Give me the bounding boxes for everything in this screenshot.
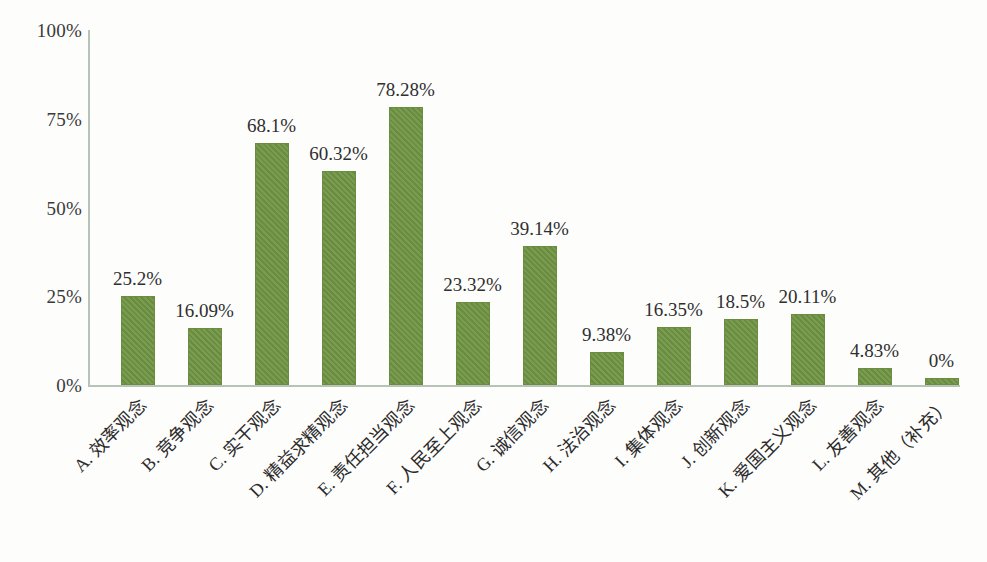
bar [925, 378, 959, 385]
x-axis-label-slot: H. 法治观念 [573, 392, 640, 562]
bar-group: 78.28% [372, 30, 439, 385]
bar-group: 18.5% [707, 30, 774, 385]
bar-group: 39.14% [506, 30, 573, 385]
bar-group: 16.09% [171, 30, 238, 385]
x-axis-category-labels: A. 效率观念B. 竞争观念C. 实干观念D. 精益求精观念E. 责任担当观念F… [90, 392, 960, 562]
y-axis-tick-label: 50% [12, 198, 82, 217]
y-axis-tick-label: 100% [12, 21, 82, 40]
bar [791, 314, 825, 385]
bar [523, 246, 557, 385]
bar-value-label: 78.28% [376, 80, 435, 99]
bar-group: 0% [908, 30, 975, 385]
x-axis-label-slot: B. 竞争观念 [171, 392, 238, 562]
x-axis-label-slot: G. 诚信观念 [506, 392, 573, 562]
bar-group: 23.32% [439, 30, 506, 385]
bar-group: 4.83% [841, 30, 908, 385]
bar [724, 319, 758, 385]
bar-value-label: 39.14% [510, 219, 569, 238]
bar-value-label: 16.09% [175, 301, 234, 320]
bar-value-label: 23.32% [443, 275, 502, 294]
y-axis-tick-label: 75% [12, 109, 82, 128]
x-axis-line [88, 385, 960, 387]
bar [322, 171, 356, 385]
x-axis-label-slot: F. 人民至上观念 [439, 392, 506, 562]
bar [590, 352, 624, 385]
bar [657, 327, 691, 385]
bar-value-label: 18.5% [716, 292, 765, 311]
bar-group: 68.1% [238, 30, 305, 385]
x-axis-label-slot: K. 爱国主义观念 [774, 392, 841, 562]
bar-group: 16.35% [640, 30, 707, 385]
y-axis-tick-labels: 0%25%50%75%100% [0, 0, 82, 562]
bar-value-label: 25.2% [113, 269, 162, 288]
bar [389, 107, 423, 385]
bar-value-label: 16.35% [644, 300, 703, 319]
y-axis-tick-label: 0% [12, 376, 82, 395]
bar-value-label: 68.1% [247, 116, 296, 135]
x-axis-category-label: A. 效率观念 [71, 396, 151, 476]
bar [456, 302, 490, 385]
y-axis-tick-label: 25% [12, 287, 82, 306]
bar-group: 9.38% [573, 30, 640, 385]
bar-value-label: 4.83% [850, 341, 899, 360]
bar-chart: 0%25%50%75%100% 25.2%16.09%68.1%60.32%78… [0, 0, 987, 562]
plot-area: 25.2%16.09%68.1%60.32%78.28%23.32%39.14%… [90, 30, 960, 385]
x-axis-label-slot: I. 集体观念 [640, 392, 707, 562]
bar-value-label: 0% [929, 351, 954, 370]
x-axis-label-slot: M. 其他（补充） [908, 392, 975, 562]
bar-value-label: 60.32% [309, 144, 368, 163]
bar-group: 25.2% [104, 30, 171, 385]
bar [188, 328, 222, 385]
bar [121, 296, 155, 385]
bar-value-label: 9.38% [582, 325, 631, 344]
bar-group: 20.11% [774, 30, 841, 385]
bar [255, 143, 289, 385]
bar-value-label: 20.11% [779, 287, 837, 306]
bar [858, 368, 892, 385]
bar-group: 60.32% [305, 30, 372, 385]
x-axis-label-slot: A. 效率观念 [104, 392, 171, 562]
